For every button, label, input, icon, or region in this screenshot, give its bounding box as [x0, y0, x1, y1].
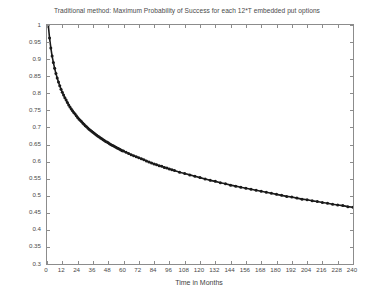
- y-tick-mark: [47, 76, 50, 77]
- x-tick-mark-top: [154, 25, 155, 28]
- x-tick-mark: [62, 261, 63, 264]
- data-point: [49, 46, 52, 49]
- y-tick-label: 0.35: [13, 242, 41, 249]
- y-tick-mark: [47, 264, 50, 265]
- x-tick-mark: [139, 261, 140, 264]
- data-point: [295, 197, 298, 200]
- x-tick-mark: [200, 261, 201, 264]
- data-point: [209, 179, 212, 182]
- x-tick-mark: [78, 261, 79, 264]
- x-tick-mark-top: [108, 25, 109, 28]
- y-tick-label: 0.3: [13, 260, 41, 267]
- x-tick-mark: [215, 261, 216, 264]
- data-point: [122, 149, 125, 152]
- data-point: [52, 61, 55, 64]
- y-tick-mark-right: [350, 196, 353, 197]
- y-tick-mark-right: [350, 179, 353, 180]
- x-tick-mark-top: [246, 25, 247, 28]
- x-tick-mark-top: [139, 25, 140, 28]
- data-point: [137, 156, 140, 159]
- x-tick-mark: [108, 261, 109, 264]
- y-tick-mark: [47, 110, 50, 111]
- x-tick-mark: [169, 261, 170, 264]
- y-tick-label: 0.9: [13, 55, 41, 62]
- data-point: [51, 55, 54, 58]
- data-point: [306, 198, 309, 201]
- data-point: [163, 166, 166, 169]
- chart-title: Traditional method: Maximum Probability …: [0, 6, 374, 15]
- data-point: [178, 171, 181, 174]
- x-tick-mark: [322, 261, 323, 264]
- y-tick-mark-right: [350, 42, 353, 43]
- data-point: [160, 165, 163, 168]
- data-point: [125, 151, 128, 154]
- y-tick-label: 0.6: [13, 157, 41, 164]
- data-point: [331, 203, 334, 206]
- x-tick-mark-top: [169, 25, 170, 28]
- data-point: [148, 160, 151, 163]
- data-point: [153, 162, 156, 165]
- x-tick-mark-top: [307, 25, 308, 28]
- y-tick-label: 0.7: [13, 123, 41, 130]
- x-tick-mark: [154, 261, 155, 264]
- data-point: [234, 185, 237, 188]
- data-point: [285, 195, 288, 198]
- y-tick-mark-right: [350, 213, 353, 214]
- data-point: [145, 159, 148, 162]
- x-tick-mark: [292, 261, 293, 264]
- x-tick-mark-top: [200, 25, 201, 28]
- x-tick-mark-top: [292, 25, 293, 28]
- y-tick-mark: [47, 196, 50, 197]
- data-point: [321, 201, 324, 204]
- data-point: [311, 199, 314, 202]
- data-point: [244, 187, 247, 190]
- y-tick-label: 0.5: [13, 191, 41, 198]
- data-point: [346, 205, 349, 208]
- y-tick-mark-right: [350, 25, 353, 26]
- plot-area: [46, 24, 354, 265]
- y-tick-label: 1: [13, 21, 41, 28]
- y-tick-label: 0.75: [13, 106, 41, 113]
- y-tick-mark: [47, 93, 50, 94]
- x-tick-label: 240: [341, 266, 363, 273]
- data-point: [127, 152, 130, 155]
- x-tick-mark-top: [215, 25, 216, 28]
- y-tick-label: 0.95: [13, 38, 41, 45]
- x-tick-mark-top: [261, 25, 262, 28]
- data-point: [56, 76, 59, 79]
- y-tick-label: 0.8: [13, 89, 41, 96]
- data-point: [239, 186, 242, 189]
- data-point: [132, 154, 135, 157]
- data-point: [204, 177, 207, 180]
- x-axis-label: Time in Months: [46, 278, 352, 287]
- x-tick-mark-top: [124, 25, 125, 28]
- data-point: [53, 67, 56, 70]
- y-tick-mark: [47, 247, 50, 248]
- data-point: [301, 198, 304, 201]
- data-point: [260, 190, 263, 193]
- y-tick-mark-right: [350, 110, 353, 111]
- x-tick-mark: [261, 261, 262, 264]
- y-tick-mark-right: [350, 145, 353, 146]
- data-point: [170, 168, 173, 171]
- y-tick-mark: [47, 213, 50, 214]
- data-point: [168, 168, 171, 171]
- y-tick-mark-right: [350, 162, 353, 163]
- x-tick-mark-top: [78, 25, 79, 28]
- x-tick-mark-top: [185, 25, 186, 28]
- y-tick-mark-right: [350, 93, 353, 94]
- data-point: [158, 164, 161, 167]
- y-tick-label: 0.85: [13, 72, 41, 79]
- data-point: [62, 93, 65, 96]
- data-point: [250, 188, 253, 191]
- data-point: [290, 196, 293, 199]
- x-tick-mark-top: [353, 25, 354, 28]
- data-point: [54, 72, 57, 75]
- y-tick-mark-right: [350, 230, 353, 231]
- data-point: [173, 169, 176, 172]
- x-tick-mark-top: [338, 25, 339, 28]
- y-tick-mark: [47, 162, 50, 163]
- data-point: [135, 155, 138, 158]
- series-polyline: [48, 25, 353, 207]
- data-point: [326, 202, 329, 205]
